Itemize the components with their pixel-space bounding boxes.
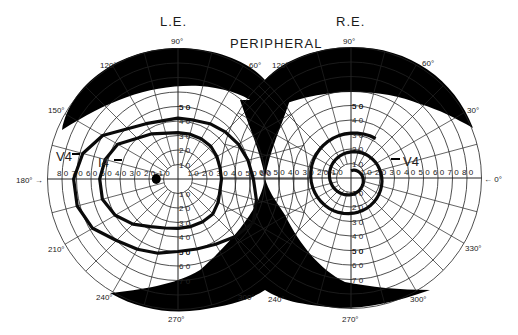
tick-label-h: 1 0 <box>332 168 344 177</box>
tick-label-h: 8 0 <box>462 168 474 177</box>
angle-label: 60° <box>249 61 261 70</box>
isopter-label-v4: V4 <box>56 149 72 164</box>
blind-spot <box>152 174 161 184</box>
tick-label-h: 6 0 <box>433 168 445 177</box>
tick-label-h: 4 0 <box>404 168 416 177</box>
visual-field-plots: 8 07 06 06 05 05 04 04 03 03 02 02 01 01… <box>0 0 518 335</box>
right-eye-grid <box>221 48 482 309</box>
isopter-label-v4: V4 <box>403 154 419 169</box>
tick-label-v: 6 0 <box>179 262 191 271</box>
tick-label-v: 7 0 <box>352 276 364 285</box>
tick-label-h: 3 0 <box>130 169 142 178</box>
tick-label-v: 1 0 <box>179 190 191 199</box>
meridian-150 <box>238 113 338 171</box>
left-eye-grid <box>48 49 309 310</box>
perimetry-chart: L.E. R.E. PERIPHERAL 8 07 06 06 05 05 04… <box>0 0 518 335</box>
tick-label-h: 8 0 <box>57 169 69 178</box>
tick-label-h: 2 0 <box>317 168 329 177</box>
tick-label-h: 4 0 <box>231 169 243 178</box>
tick-label-v: 3 0 <box>352 218 364 227</box>
tick-label-v: 7 0 <box>179 277 191 286</box>
tick-label-v: 2 0 <box>179 204 191 213</box>
left-upper-scotoma <box>62 48 265 130</box>
angle-label: 30° <box>467 106 479 115</box>
angle-label: ← 0° <box>484 175 502 184</box>
tick-label-v: 5 0 <box>352 247 364 256</box>
isopter-label-i4: I4 <box>98 155 109 170</box>
tick-label-h: 1 0 <box>188 169 200 178</box>
tick-label-h: 1 0 <box>159 169 171 178</box>
tick-label-h: 7 0 <box>448 168 460 177</box>
tick-label-v: 4 0 <box>179 233 191 242</box>
tick-label-v: 2 0 <box>179 146 191 155</box>
tick-label-v: 1 0 <box>179 161 191 170</box>
tick-label-h: 6 0 <box>259 168 271 177</box>
tick-label-h: 5 0 <box>274 168 286 177</box>
tick-label-h: 5 0 <box>419 168 431 177</box>
angle-label: 330° <box>465 244 482 253</box>
angle-label: 270° <box>342 315 359 324</box>
angle-label: 300° <box>410 295 427 304</box>
angle-label: 150° <box>48 106 65 115</box>
meridian-300 <box>358 191 416 291</box>
tick-label-v: 4 0 <box>352 232 364 241</box>
meridian-345 <box>192 183 304 213</box>
tick-label-v: 4 0 <box>352 116 364 125</box>
meridian-195 <box>225 182 337 212</box>
angle-label: 210° <box>48 245 65 254</box>
angle-label: 120° <box>100 61 117 70</box>
angle-label: 300° <box>238 293 255 302</box>
angle-label: 270° <box>168 315 185 324</box>
lower-scotoma <box>110 178 430 311</box>
angle-label: 60° <box>422 59 434 68</box>
angle-label: 240° <box>96 293 113 302</box>
tick-label-v: 5 0 <box>179 103 191 112</box>
tick-label-v: 1 0 <box>352 160 364 169</box>
angle-label: 240° <box>268 295 285 304</box>
tick-label-h: 6 0 <box>86 169 98 178</box>
tick-label-h: 3 0 <box>390 168 402 177</box>
angle-label: 120° <box>272 61 289 70</box>
tick-label-v: 5 0 <box>352 102 364 111</box>
tick-label-v: 6 0 <box>352 261 364 270</box>
angle-label: 90° <box>171 37 183 46</box>
tick-label-h: 4 0 <box>288 168 300 177</box>
angle-label: 90° <box>343 37 355 46</box>
tick-label-h: 2 0 <box>202 169 214 178</box>
tick-label-h: 4 0 <box>115 169 127 178</box>
angle-label: 180° → <box>16 176 43 185</box>
